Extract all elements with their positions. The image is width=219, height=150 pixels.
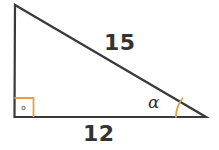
right-angle-marker-icon (15, 98, 34, 117)
side-label-base: 12 (83, 123, 115, 145)
triangle-outline (15, 5, 207, 117)
right-angle-dot-icon (22, 106, 25, 109)
angle-label-alpha: α (148, 94, 159, 111)
side-label-hypotenuse: 15 (104, 32, 136, 54)
geometry-figure: 15 12 α (0, 0, 219, 150)
